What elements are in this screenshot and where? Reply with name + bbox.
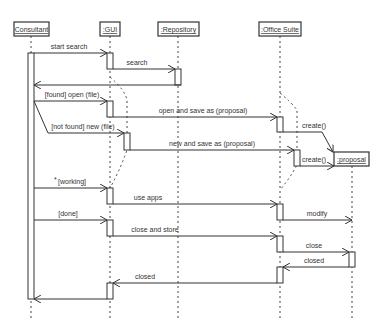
- label-closed-2: closed: [135, 273, 155, 280]
- label-use-apps: use apps: [134, 194, 163, 202]
- label-closed-1: closed: [304, 257, 324, 264]
- label-new-and-save: new and save as (proposal): [169, 140, 255, 148]
- proposal-label: :proposal: [337, 156, 366, 164]
- office-activation-5: [277, 267, 283, 283]
- repository-activation: [175, 69, 181, 85]
- label-working-star: *: [54, 176, 57, 183]
- gui-activation-3: [124, 133, 130, 150]
- label-close: close: [306, 242, 322, 249]
- repository-label: :Repository: [161, 26, 197, 34]
- label-search: search: [126, 59, 147, 66]
- msg-create-1: [283, 132, 333, 152]
- office-label: :Office Suite: [261, 26, 299, 33]
- gui-activation-6: [107, 283, 113, 299]
- gui-activation-5: [107, 220, 113, 236]
- gui-activation-1: [107, 53, 113, 69]
- office-activation-1: [277, 117, 283, 132]
- office-activation-3: [277, 204, 283, 220]
- gui-activation-2: [107, 101, 113, 117]
- label-open-and-save: open and save as (proposal): [159, 107, 248, 115]
- label-working: [working]: [58, 178, 86, 186]
- office-activation-4: [277, 236, 283, 252]
- office-branch-curve: [280, 93, 297, 190]
- label-found-open: [found] open (file): [45, 91, 99, 99]
- consultant-label: Consultant: [15, 26, 49, 33]
- sequence-diagram: Consultant :GUI :Repository :Office Suit…: [0, 0, 387, 333]
- proposal-activation: [349, 252, 355, 267]
- gui-label: :GUI: [103, 26, 117, 33]
- office-activation-2: [294, 150, 300, 166]
- label-done: [done]: [58, 210, 78, 218]
- gui-activation-4: [107, 188, 113, 204]
- label-create-1: create(): [302, 122, 326, 130]
- label-create-2: create(): [302, 156, 326, 164]
- label-not-found-new: [not found] new (file): [51, 123, 114, 131]
- label-close-and-store: close and store: [131, 226, 179, 233]
- consultant-activation: [28, 53, 34, 299]
- label-start-search: start search: [51, 43, 88, 50]
- label-modify: modify: [307, 210, 328, 218]
